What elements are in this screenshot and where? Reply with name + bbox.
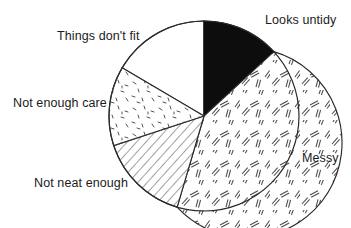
pie-label-messy: Messy — [302, 151, 339, 165]
pie-chart-canvas — [0, 0, 351, 228]
pie-label-looks-untidy: Looks untidy — [265, 13, 336, 27]
pie-label-things-dont-fit: Things don't fit — [57, 29, 140, 43]
pie-label-not-enough-care: Not enough care — [13, 96, 107, 110]
pie-chart: Looks untidy Things don't fit Not enough… — [0, 0, 351, 228]
pie-label-not-neat-enough: Not neat enough — [34, 176, 128, 190]
